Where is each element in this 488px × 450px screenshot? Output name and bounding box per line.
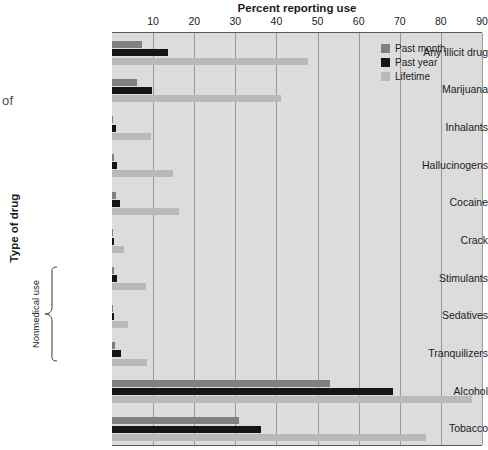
bar-past_year-sedatives [112,313,114,320]
category-label-tranquilizers: Tranquilizers [380,347,488,359]
bar-past_month-inhalants [112,116,113,123]
bar-lifetime-hallucinogens [112,170,173,177]
bar-past_year-stimulants [112,275,117,282]
bar-past_month-crack [112,229,113,236]
legend-swatch-past_year [381,58,390,67]
category-label-inhalants: Inhalants [380,121,488,133]
bar-past_month-tranquilizers [112,342,115,349]
nonmedical-use-bracket-label: Nonmedical use [30,280,41,348]
nonmedical-use-brace-icon [44,266,58,362]
category-label-alcohol: Alcohol [380,385,488,397]
x-tick-label-30: 30 [229,15,241,27]
page-text-fragment: of [2,93,13,108]
x-tick-label-50: 50 [312,15,324,27]
legend-label-lifetime: Lifetime [395,71,430,82]
bar-past_year-marijuana [112,87,152,94]
bar-past_year-inhalants [112,125,116,132]
bar-past_month-stimulants [112,267,114,274]
x-tick-label-10: 10 [147,15,159,27]
category-label-tobacco: Tobacco [380,422,488,434]
bar-past_month-marijuana [112,79,137,86]
category-label-hallucinogens: Hallucinogens [380,159,488,171]
category-label-crack: Crack [380,234,488,246]
bar-chart: of Percent reporting use 102030405060708… [0,0,488,450]
bar-past_month-hallucinogens [112,154,114,161]
x-tick-label-90: 90 [476,15,488,27]
x-axis-tick-labels: 102030405060708090 [112,15,482,31]
legend-label-past_year: Past year [395,57,437,68]
bar-past_year-any-illicit-drug [112,49,168,56]
bar-past_year-tobacco [112,426,261,433]
bar-past_year-hallucinogens [112,162,117,169]
bar-past_year-tranquilizers [112,350,121,357]
category-label-sedatives: Sedatives [380,309,488,321]
bar-lifetime-cocaine [112,208,179,215]
bar-lifetime-crack [112,246,124,253]
bar-past_month-alcohol [112,380,330,387]
gridline-60 [359,33,360,445]
bar-past_month-cocaine [112,192,116,199]
bar-past_month-any-illicit-drug [112,41,142,48]
category-label-stimulants: Stimulants [380,272,488,284]
x-tick-label-20: 20 [188,15,200,27]
bar-lifetime-any-illicit-drug [112,58,308,65]
bar-past_month-sedatives [112,305,113,312]
category-label-cocaine: Cocaine [380,196,488,208]
bar-past_year-crack [112,238,114,245]
bar-lifetime-tobacco [112,434,426,441]
legend-swatch-lifetime [381,72,390,81]
x-tick-label-80: 80 [435,15,447,27]
bar-past_month-tobacco [112,417,239,424]
category-label-any-illicit-drug: Any illicit drug [380,46,488,58]
y-axis-title: Type of drug [8,194,20,263]
x-tick-label-70: 70 [394,15,406,27]
bar-lifetime-inhalants [112,133,151,140]
bar-past_year-alcohol [112,388,393,395]
bar-lifetime-sedatives [112,321,128,328]
x-tick-label-40: 40 [271,15,283,27]
x-tick-label-60: 60 [353,15,365,27]
category-label-marijuana: Marijuana [380,83,488,95]
x-axis-title: Percent reporting use [112,2,482,14]
bar-lifetime-alcohol [112,396,472,403]
bar-lifetime-stimulants [112,283,146,290]
bar-lifetime-marijuana [112,95,281,102]
bar-past_year-cocaine [112,200,120,207]
legend-item-lifetime: Lifetime [381,69,472,83]
bar-lifetime-tranquilizers [112,359,147,366]
